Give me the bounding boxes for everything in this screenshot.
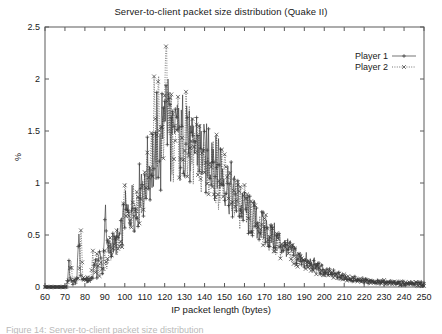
svg-text:130: 130	[177, 292, 192, 302]
legend-label-2: Player 2	[355, 62, 388, 72]
legend-label-1: Player 1	[355, 51, 388, 61]
svg-text:240: 240	[397, 292, 412, 302]
series-1	[43, 79, 426, 289]
svg-text:160: 160	[237, 292, 252, 302]
svg-text:70: 70	[60, 292, 70, 302]
svg-text:180: 180	[277, 292, 292, 302]
svg-text:150: 150	[217, 292, 232, 302]
svg-text:210: 210	[337, 292, 352, 302]
x-axis-label: IP packet length (bytes)	[0, 304, 442, 315]
svg-text:230: 230	[377, 292, 392, 302]
svg-text:90: 90	[100, 292, 110, 302]
svg-text:120: 120	[157, 292, 172, 302]
svg-text:0: 0	[35, 282, 40, 292]
svg-text:0.5: 0.5	[27, 230, 40, 240]
svg-text:1: 1	[35, 178, 40, 188]
svg-text:2.5: 2.5	[27, 22, 40, 32]
svg-text:250: 250	[416, 292, 431, 302]
svg-text:1.5: 1.5	[27, 126, 40, 136]
chart-plot-area: 6070809010011012013014015016017018019020…	[0, 0, 442, 334]
series-2	[43, 44, 426, 288]
svg-text:200: 200	[317, 292, 332, 302]
legend-marker-1	[402, 54, 406, 58]
legend-marker-2	[402, 65, 406, 69]
svg-text:60: 60	[40, 292, 50, 302]
data-series-layer	[43, 44, 426, 288]
svg-text:140: 140	[197, 292, 212, 302]
figure-container: Server-to-client packet size distributio…	[0, 0, 442, 334]
svg-text:170: 170	[257, 292, 272, 302]
svg-text:80: 80	[80, 292, 90, 302]
figure-caption: Figure 14: Server-to-client packet size …	[6, 325, 436, 334]
svg-text:100: 100	[117, 292, 132, 302]
svg-text:220: 220	[357, 292, 372, 302]
chart-legend: Player 1Player 2	[355, 51, 416, 72]
svg-text:2: 2	[35, 74, 40, 84]
svg-text:110: 110	[138, 292, 152, 302]
svg-text:190: 190	[297, 292, 312, 302]
